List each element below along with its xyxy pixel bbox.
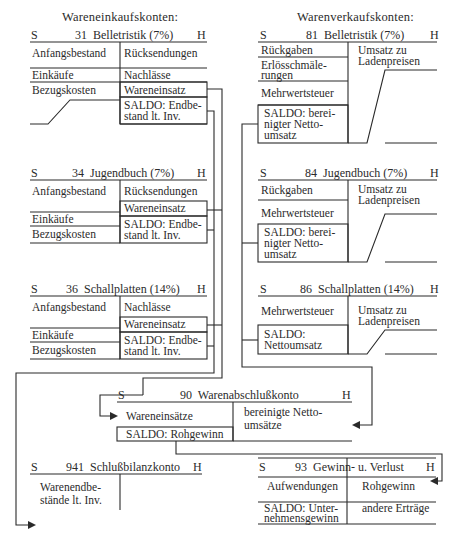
entry: rungen (261, 70, 293, 81)
entry: Mehrwertsteuer (261, 88, 334, 99)
credit-label: H (426, 462, 435, 473)
entry: umsatz (264, 249, 297, 260)
entry: Bezugskosten (32, 229, 96, 240)
debit-label: S (118, 390, 125, 401)
entry: Warenendbe- (40, 482, 101, 493)
entry: Einkäufe (32, 330, 74, 341)
entry: Bezugskosten (32, 85, 96, 96)
entry: Rücksendungen (124, 48, 197, 59)
entry: Anfangsbestand (32, 186, 106, 197)
account-title: 84 Jugendbuch (7%) (305, 168, 407, 179)
entry: stand lt. Inv. (124, 230, 181, 241)
entry: Bezugskosten (32, 345, 96, 356)
debit-label: S (31, 284, 38, 295)
debit-label: S (31, 168, 38, 179)
entry: Ladenpreisen (358, 56, 420, 67)
entry: Einkäufe (32, 70, 74, 81)
credit-label: H (197, 30, 206, 41)
entry: Wareneinsatz (124, 203, 186, 214)
credit-label: H (197, 168, 206, 179)
entry: Rohgewinn (362, 481, 415, 492)
entry: bereinigte Netto- (244, 407, 322, 418)
credit-label: H (430, 284, 439, 295)
entry: stand lt. Inv. (124, 111, 181, 122)
entry: Wareneinsatz (124, 319, 186, 330)
entry: andere Erträge (362, 503, 429, 514)
entry: Rücksendungen (124, 186, 197, 197)
credit-label: H (342, 390, 351, 401)
entry: Wareneinsatz (124, 85, 186, 96)
entry: Einkäufe (32, 214, 74, 225)
entry: umsatz (264, 130, 297, 141)
account-title: 36 Schallplatten (14%) (66, 284, 180, 295)
entry: nehmensgewinn (264, 513, 339, 524)
entry: Mehrwertsteuer (261, 306, 334, 317)
entry: Anfangsbestand (32, 302, 106, 313)
entry: Nachlässe (124, 302, 171, 313)
credit-label: H (430, 168, 439, 179)
account-title: 31 Belletristik (7%) (75, 30, 173, 41)
entry: Anfangsbestand (32, 48, 106, 59)
entry: Nachlässe (124, 70, 171, 81)
entry: Aufwendungen (267, 481, 338, 492)
debit-label: S (31, 30, 38, 41)
entry: Mehrwertsteuer (261, 208, 334, 219)
entry: Nettoumsatz (264, 340, 322, 351)
section-heading-sales-accounts: Warenverkaufskonten: (297, 12, 414, 23)
debit-label: S (260, 30, 267, 41)
entry: umsätze (244, 420, 282, 431)
debit-label: S (260, 168, 267, 179)
account-title: 93 Gewinn- u. Verlust (295, 462, 404, 473)
entry: Wareneinsätze (126, 411, 193, 422)
credit-label: H (197, 284, 206, 295)
account-title: 941 Schlußbilanzkonto (66, 462, 180, 473)
credit-label: H (430, 30, 439, 41)
entry: stand lt. Inv. (124, 346, 181, 357)
debit-label: S (260, 284, 267, 295)
debit-label: S (31, 462, 38, 473)
section-heading-purchase-accounts: Wareneinkaufskonten: (62, 12, 178, 23)
entry: Rückgaben (261, 45, 313, 56)
account-title: 81 Belletristik (7%) (306, 30, 404, 41)
entry: stände lt. Inv. (40, 495, 102, 506)
credit-label: H (193, 462, 202, 473)
entry: Ladenpreisen (358, 316, 420, 327)
entry: Ladenpreisen (358, 195, 420, 206)
account-title: 34 Jugendbuch (7%) (72, 168, 174, 179)
debit-label: S (259, 462, 266, 473)
entry: Rückgaben (261, 185, 313, 196)
account-title: 86 Schallplatten (14%) (300, 284, 414, 295)
account-title: 90 Warenabschlußkonto (180, 390, 299, 401)
entry: SALDO: Rohgewinn (126, 429, 223, 440)
